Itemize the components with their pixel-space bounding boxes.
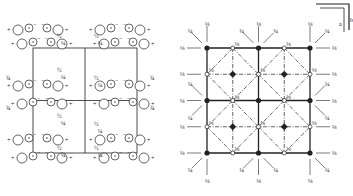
height-label: ¼	[188, 28, 193, 34]
height-label: ⅛	[286, 41, 291, 47]
comma-dot	[114, 41, 115, 42]
sign-label: −	[115, 21, 119, 27]
diagonal-arrow	[192, 106, 202, 116]
fourfold-axis-diamond	[281, 123, 288, 130]
comma-dot	[46, 83, 47, 84]
comma-dot	[32, 101, 33, 102]
sign-label: +	[7, 137, 11, 143]
height-label: ⅛	[209, 120, 214, 126]
height-label: ¼	[325, 81, 330, 87]
fraction-quarter-label: ¼	[61, 120, 66, 126]
position-cluster: +−	[7, 77, 37, 91]
height-label: ¼	[325, 115, 330, 121]
position-cluster: +−	[41, 131, 69, 145]
sign-label: +	[93, 41, 97, 47]
sign-label: +	[11, 101, 15, 107]
sign-label: −	[33, 131, 37, 137]
position-circle	[17, 153, 27, 163]
diagonal-arrow	[315, 33, 325, 43]
fraction-quarter-label: ¼	[98, 152, 103, 158]
sign-label: −	[37, 149, 41, 155]
fraction-half-label: ½	[57, 67, 62, 73]
height-label: ⅛	[332, 150, 337, 156]
height-label: ⅛	[308, 21, 313, 27]
rotation-axis-filled	[256, 150, 261, 155]
comma-dot	[28, 137, 29, 138]
comma-dot	[46, 27, 47, 28]
fourfold-axis-diamond	[229, 123, 236, 130]
sign-label: −	[33, 77, 37, 83]
diagonal-glide-line	[207, 127, 233, 153]
sign-label: +	[69, 101, 73, 107]
diagonal-glide-line	[233, 101, 259, 127]
rotation-axis-filled	[204, 150, 209, 155]
sign-label: +	[147, 137, 151, 143]
sign-label: +	[69, 41, 73, 47]
height-label: ¼	[325, 28, 330, 34]
general-positions-panel: +−+−+−+−+−+−+−+−+−+−+−+−+−+−+−+−+−+−+−+−…	[6, 21, 155, 163]
sign-label: +	[7, 27, 11, 33]
diagonal-arrow	[192, 158, 202, 168]
diagonal-glide-line	[233, 48, 259, 74]
comma-dot	[132, 155, 133, 156]
diagonal-arrow	[244, 158, 254, 168]
sign-label: −	[115, 77, 119, 83]
sign-label: +	[147, 27, 151, 33]
space-group-diagram: +−+−+−+−+−+−+−+−+−+−+−+−+−+−+−+−+−+−+−+−…	[0, 0, 353, 196]
position-cluster: +−	[127, 149, 155, 163]
position-circle	[13, 135, 23, 145]
fourfold-axis-diamond	[229, 71, 236, 78]
sign-label: −	[119, 35, 123, 41]
position-circle	[139, 153, 149, 163]
fraction-label: ¾	[150, 75, 155, 81]
sign-label: −	[115, 131, 119, 137]
comma-dot	[50, 101, 51, 102]
comma-dot	[132, 101, 133, 102]
comma-dot	[50, 41, 51, 42]
fourfold-axis-diamond	[281, 71, 288, 78]
height-label: ¼	[188, 167, 193, 173]
axis-indicator-b	[320, 8, 344, 32]
height-label: ⅛	[286, 146, 291, 152]
height-label: ⅛	[261, 67, 266, 73]
comma-dot	[50, 155, 51, 156]
position-cluster: +−	[123, 21, 151, 35]
height-label: ¼	[240, 28, 245, 34]
position-cluster: +−	[7, 21, 37, 35]
height-label: ⅛	[312, 67, 317, 73]
position-cluster: +−	[93, 95, 123, 109]
position-cluster: +−	[11, 35, 41, 49]
height-label: ⅛	[180, 45, 185, 51]
height-label: ⅛	[257, 178, 262, 184]
fraction-quarter-label: ¼	[98, 128, 103, 134]
height-label: ⅛	[257, 21, 262, 27]
position-circle	[17, 39, 27, 49]
height-label: ¼	[325, 167, 330, 173]
comma-dot	[28, 83, 29, 84]
position-circle	[139, 39, 149, 49]
sign-label: +	[151, 41, 155, 47]
height-label: ⅛	[332, 98, 337, 104]
sign-label: +	[7, 83, 11, 89]
sign-label: +	[89, 27, 93, 33]
rotation-axis-filled	[307, 150, 312, 155]
fraction-quarter-label: ¼	[98, 40, 103, 46]
fraction-quarter-label: ¼	[61, 40, 66, 46]
sign-label: −	[119, 149, 123, 155]
sign-label: +	[69, 155, 73, 161]
position-cluster: +−	[41, 21, 69, 35]
position-circle	[17, 99, 27, 109]
sign-label: +	[147, 83, 151, 89]
sign-label: −	[37, 35, 41, 41]
position-circle	[57, 99, 67, 109]
height-label: ⅛	[235, 146, 240, 152]
diagonal-arrow	[192, 86, 202, 96]
fraction-label: ¾	[6, 75, 11, 81]
fraction-quarter-label: ¼	[61, 152, 66, 158]
comma-dot	[128, 27, 129, 28]
sign-label: +	[65, 27, 69, 33]
axis-a-label: a	[339, 21, 342, 27]
position-cluster: +−	[45, 149, 73, 163]
sign-label: −	[33, 21, 37, 27]
height-label: ⅛	[180, 124, 185, 130]
